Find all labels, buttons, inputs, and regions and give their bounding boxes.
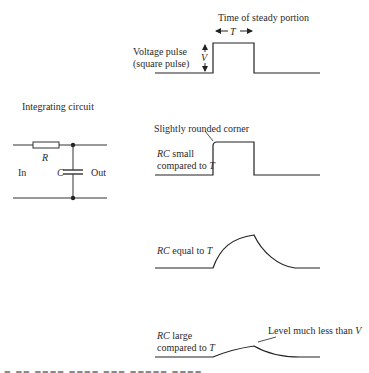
v-symbol: V <box>355 325 361 336</box>
rc-small-label-line2: compared to T <box>157 160 215 171</box>
t-symbol: T <box>207 245 213 256</box>
amplitude-label-v: V <box>201 52 207 63</box>
width-label-t: T <box>230 26 236 37</box>
rounded-corner-annotation: Slightly rounded corner <box>154 123 249 134</box>
rc-small-text: small <box>170 148 194 159</box>
level-pointer <box>258 337 276 342</box>
rc-large-label-line2: compared to T <box>157 342 215 353</box>
compared-to-text: compared to <box>157 160 209 171</box>
circuit-title: Integrating circuit <box>22 101 94 112</box>
resistor-label: R <box>42 152 48 163</box>
steady-portion-caption: Time of steady portion <box>218 12 309 23</box>
rc-symbol: RC <box>157 148 170 159</box>
t-symbol: T <box>209 342 215 353</box>
capacitor-label: C <box>57 167 64 178</box>
t-symbol: T <box>209 160 215 171</box>
square-pulse-label: (square pulse) <box>133 58 189 69</box>
rc-large-text: large <box>170 330 192 341</box>
compared-to-text: compared to <box>157 342 209 353</box>
bottom-node <box>71 196 75 200</box>
level-annotation: Level much less than V <box>268 325 361 336</box>
input-label: In <box>18 167 26 178</box>
cut-off-caption: ■ ■■ ■■■■ ■■■■ ■■■ ■■■■■ ■■■■ <box>0 368 369 373</box>
equal-to-text: equal to <box>170 245 207 256</box>
rc-symbol: RC <box>157 245 170 256</box>
rc-symbol: RC <box>157 330 170 341</box>
level-text: Level much less than <box>268 325 355 336</box>
voltage-pulse-label: Voltage pulse <box>133 46 187 57</box>
rc-small-label-line1: RC small <box>157 148 194 159</box>
rc-large-label-line1: RC large <box>157 330 192 341</box>
rc-equal-label: RC equal to T <box>157 245 212 256</box>
output-label: Out <box>91 167 106 178</box>
resistor-symbol <box>33 142 59 148</box>
